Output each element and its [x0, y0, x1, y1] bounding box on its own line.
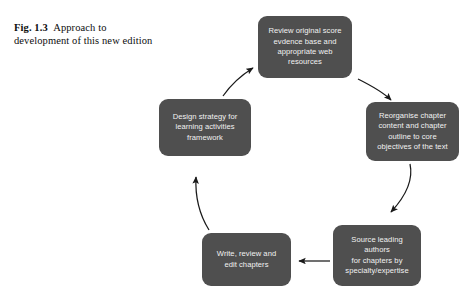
process-node-reorganise: Reorganise chapter content and chapter o…: [366, 102, 459, 161]
arrow-design-to-review: [223, 68, 253, 96]
process-node-design-label: Design strategy for learning activities …: [164, 112, 246, 143]
process-node-review: Review original score evdence base and a…: [258, 16, 352, 78]
process-node-write: Write, review and edit chapters: [202, 233, 291, 286]
figure-container: Fig. 1.3 Approach to development of this…: [0, 0, 470, 294]
process-node-write-label: Write, review and edit chapters: [207, 249, 286, 270]
process-node-source-label: Source leading authors for chapters by s…: [338, 235, 416, 276]
process-node-source: Source leading authors for chapters by s…: [333, 225, 421, 286]
arrow-review-to-reorganise: [358, 79, 391, 100]
process-node-reorganise-label: Reorganise chapter content and chapter o…: [371, 111, 454, 152]
process-node-review-label: Review original score evdence base and a…: [263, 26, 347, 67]
arrow-write-to-design: [196, 177, 209, 230]
process-node-design: Design strategy for learning activities …: [159, 99, 251, 156]
arrow-reorganise-to-source: [391, 164, 411, 212]
